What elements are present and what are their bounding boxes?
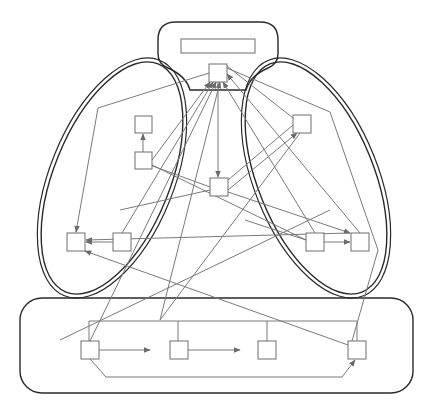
node-center[interactable] [210, 178, 228, 196]
diagram-canvas [0, 0, 438, 406]
node-bottom-d[interactable] [348, 341, 366, 359]
node-left-b[interactable] [135, 152, 152, 169]
node-bottom-b[interactable] [170, 341, 188, 359]
node-left-d[interactable] [113, 233, 131, 251]
node-left-a[interactable] [135, 116, 152, 133]
node-left-c[interactable] [67, 233, 85, 251]
node-bottom-c[interactable] [258, 341, 276, 359]
node-bottom-a[interactable] [81, 341, 99, 359]
header-bar [181, 39, 255, 53]
node-right-b[interactable] [306, 233, 324, 251]
node-top-hub[interactable] [209, 64, 227, 82]
edges [60, 66, 378, 377]
node-right-c[interactable] [351, 233, 369, 251]
node-right-a[interactable] [293, 115, 311, 133]
